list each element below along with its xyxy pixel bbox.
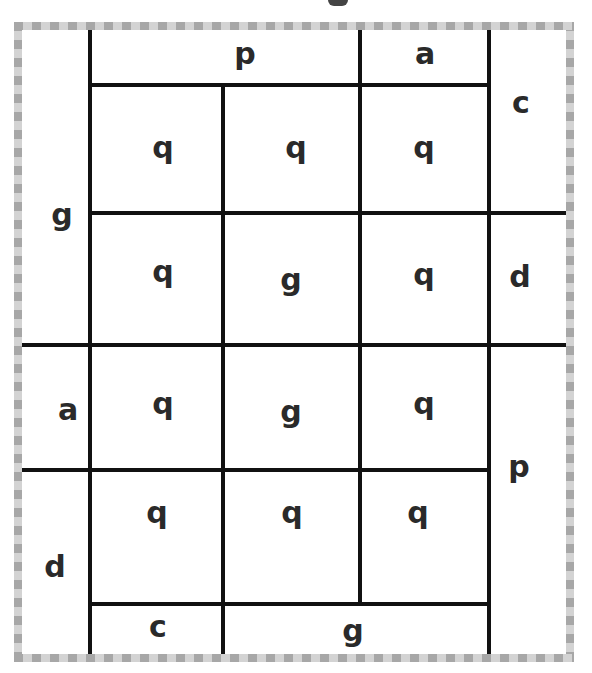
cell-r1c2: q	[285, 133, 306, 163]
cell-r3c1: q	[152, 389, 173, 419]
cell-r3c3: q	[413, 389, 434, 419]
hline-5	[88, 602, 491, 606]
cell-bottom-c: c	[149, 612, 167, 642]
cell-top-p: p	[234, 39, 255, 69]
cell-left-d: d	[44, 552, 65, 582]
cell-r4c3: q	[407, 498, 428, 528]
cell-r1c1: q	[152, 133, 173, 163]
cell-right-d: d	[509, 262, 530, 292]
hline-4	[22, 468, 491, 472]
vline-3	[358, 30, 362, 606]
cell-r3c2: g	[280, 397, 301, 427]
cell-r1c3: q	[413, 133, 434, 163]
cell-left-g: g	[51, 200, 72, 230]
vline-1	[88, 30, 92, 654]
cell-r2c1: q	[152, 257, 173, 287]
cell-right-p: p	[508, 452, 529, 482]
cell-right-c: c	[512, 88, 530, 118]
cell-left-a: a	[58, 395, 78, 425]
cell-r2c3: q	[413, 260, 434, 290]
cell-r2c2: g	[280, 265, 301, 295]
hline-2	[88, 211, 566, 215]
vline-2	[221, 84, 225, 654]
cell-bottom-g: g	[342, 616, 363, 646]
cell-top-a: a	[415, 39, 435, 69]
hline-1	[88, 83, 491, 87]
cell-r4c2: q	[281, 498, 302, 528]
vline-4	[487, 30, 491, 654]
cropped-glyph-fragment	[328, 0, 348, 6]
hline-3	[22, 343, 566, 347]
cell-r4c1: q	[146, 498, 167, 528]
